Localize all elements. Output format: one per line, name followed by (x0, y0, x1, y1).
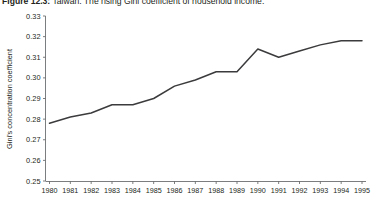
x-axis-ticks: 1980198119821983198419851986198719881989… (42, 181, 371, 195)
y-tick-label: 0.27 (26, 135, 40, 144)
y-axis-title: Gini's concentration coefficient (5, 49, 14, 149)
x-tick-label: 1981 (62, 186, 78, 195)
x-tick-label: 1990 (250, 186, 266, 195)
x-tick-label: 1995 (354, 186, 370, 195)
y-tick-label: 0.31 (26, 53, 40, 62)
y-tick-label: 0.32 (26, 32, 40, 41)
y-tick-label: 0.30 (26, 73, 40, 82)
x-tick-label: 1984 (125, 186, 141, 195)
x-tick-label: 1993 (312, 186, 328, 195)
x-tick-label: 1983 (104, 186, 120, 195)
y-tick-label: 0.28 (26, 115, 40, 124)
x-tick-label: 1992 (292, 186, 308, 195)
x-tick-label: 1982 (83, 186, 99, 195)
x-tick-label: 1987 (187, 186, 203, 195)
figure-root: Figure 12.3: Taiwan: The rising Gini coe… (0, 0, 371, 198)
y-tick-label: 0.29 (26, 94, 40, 103)
chart-plot-area: 0.330.320.310.300.290.280.270.260.25 198… (0, 0, 371, 198)
x-tick-label: 1991 (271, 186, 287, 195)
y-tick-label: 0.25 (26, 177, 40, 186)
x-tick-label: 1986 (167, 186, 183, 195)
x-tick-label: 1988 (208, 186, 224, 195)
y-tick-label: 0.26 (26, 156, 40, 165)
y-tick-label: 0.33 (26, 12, 40, 21)
x-tick-label: 1980 (42, 186, 58, 195)
x-tick-label: 1994 (333, 186, 349, 195)
x-tick-label: 1989 (229, 186, 245, 195)
x-tick-label: 1985 (146, 186, 162, 195)
line-chart: 0.330.320.310.300.290.280.270.260.25 198… (0, 0, 371, 198)
y-axis-ticks: 0.330.320.310.300.290.280.270.260.25 (26, 12, 45, 186)
series-line-gini (50, 41, 363, 124)
